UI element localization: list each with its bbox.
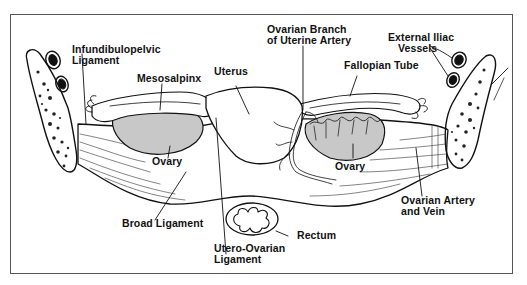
label-infundibulopelvic-ligament: Infundibulopelvic Ligament <box>72 44 161 66</box>
label-rectum: Rectum <box>297 230 336 241</box>
label-fallopian-tube: Fallopian Tube <box>344 60 419 71</box>
right-pelvic-bone <box>445 55 508 168</box>
label-ovary-right: Ovary <box>335 161 365 172</box>
label-uterus: Uterus <box>214 66 248 77</box>
label-ovarian-artery-vein: Ovarian Artery and Vein <box>401 195 475 217</box>
label-broad-ligament: Broad Ligament <box>122 218 203 229</box>
label-ovarian-branch-uterine-artery: Ovarian Branch of Uterine Artery <box>267 24 351 46</box>
label-utero-ovarian-ligament: Utero-Ovarian Ligament <box>214 243 285 265</box>
rectum <box>226 203 278 235</box>
label-external-iliac-vessels: External Iliac Vessels <box>388 32 454 54</box>
label-ovary-left: Ovary <box>152 156 182 167</box>
label-mesosalpinx: Mesosalpinx <box>137 73 201 84</box>
left-iliac-vessels <box>43 49 70 93</box>
uterus <box>206 87 302 163</box>
